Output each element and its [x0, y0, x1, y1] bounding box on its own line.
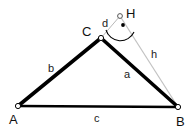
geometry-canvas: A B C H b a c h d: [0, 0, 194, 129]
side-c-line: [18, 106, 178, 107]
vertex-label-b: B: [176, 114, 185, 129]
side-label-d: d: [102, 17, 108, 29]
side-label-b: b: [48, 62, 54, 74]
geometry-figure: A B C H b a c h d: [0, 0, 194, 129]
vertex-label-c: C: [82, 24, 91, 39]
side-label-h: h: [151, 48, 157, 60]
vertex-marker-a: [15, 103, 20, 108]
side-label-c: c: [94, 112, 100, 124]
angle-center-dot: [121, 23, 125, 27]
side-b-line: [18, 38, 101, 106]
side-a-line: [101, 38, 178, 107]
side-label-a: a: [124, 68, 131, 80]
vertex-label-a: A: [9, 112, 18, 127]
vertex-marker-b: [175, 104, 180, 109]
vertex-marker-c: [98, 35, 103, 40]
vertex-label-h: H: [126, 6, 135, 21]
vertex-marker-h: [118, 14, 123, 19]
